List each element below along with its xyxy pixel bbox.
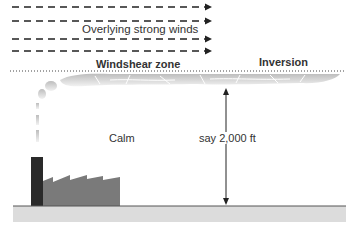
height-label: say 2,000 ft [199, 132, 256, 144]
factory [43, 175, 120, 206]
calm-label: Calm [109, 132, 135, 144]
smoke-plume [36, 74, 340, 142]
windshear-diagram: Overlying strong winds Windshear zone In… [0, 0, 359, 226]
overlying-winds-label: Overlying strong winds [82, 23, 198, 35]
wind-arrowheads [205, 4, 212, 55]
height-arrow [223, 88, 229, 205]
ground [13, 206, 346, 222]
chimney [31, 157, 43, 206]
windshear-zone-label: Windshear zone [96, 58, 180, 70]
inversion-label: Inversion [259, 56, 308, 68]
